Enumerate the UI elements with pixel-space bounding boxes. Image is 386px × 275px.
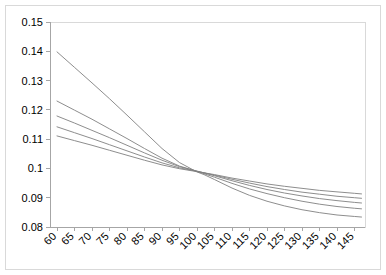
x-tick-label: 100 [177,230,198,251]
x-tick-label: 60 [41,230,58,247]
y-tick-label: 0.09 [22,192,43,204]
y-tick-label: 0.15 [22,16,43,28]
x-tick-label: 135 [299,230,320,251]
x-tick-label: 125 [264,230,285,251]
x-tick-label: 80 [111,230,128,247]
y-tick-label: 0.08 [22,221,43,233]
y-tick-label: 0.14 [22,45,43,57]
x-tick-label: 75 [94,230,111,247]
chart-container: 0.080.090.10.110.120.130.140.15 60657075… [0,0,386,275]
x-tick-label: 90 [146,230,163,247]
x-tick-label: 85 [129,230,146,247]
y-tick-label: 0.11 [22,133,43,145]
x-tick-label: 120 [247,230,268,251]
x-tick-label: 140 [317,230,338,251]
x-tick-label: 105 [194,230,215,251]
y-axis-ticks: 0.080.090.10.110.120.130.140.15 [22,16,50,233]
x-tick-label: 145 [334,230,355,251]
y-tick-label: 0.12 [22,104,43,116]
x-tick-label: 70 [76,230,93,247]
x-tick-label: 110 [213,230,234,251]
x-tick-label: 130 [282,230,303,251]
y-tick-label: 0.13 [22,75,43,87]
y-tick-label: 0.1 [28,162,43,174]
x-tick-label: 65 [59,230,76,247]
line-chart: 0.080.090.10.110.120.130.140.15 60657075… [0,0,386,275]
x-axis-ticks: 6065707580859095100105110115120125130135… [41,227,356,251]
plot-background [50,22,365,227]
x-tick-label: 115 [230,230,251,251]
plot-area [50,22,365,227]
